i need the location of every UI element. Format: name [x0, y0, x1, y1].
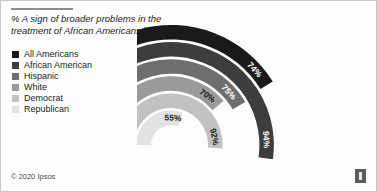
radial-arc-chart: 74%94%75%70%92%55%: [137, 13, 369, 159]
legend-item-republican[interactable]: Republican: [12, 104, 92, 115]
chart-legend: All Americans African American Hispanic …: [12, 49, 92, 115]
legend-item-african-american[interactable]: African American: [12, 60, 92, 71]
ipsos-logo-icon: [355, 169, 366, 183]
legend-swatch-icon: [12, 51, 19, 58]
legend-swatch-icon: [12, 106, 19, 113]
legend-swatch-icon: [12, 84, 19, 91]
legend-item-white[interactable]: White: [12, 82, 92, 93]
arc-plot-area: 74%94%75%70%92%55%: [137, 13, 369, 159]
legend-item-hispanic[interactable]: Hispanic: [12, 71, 92, 82]
legend-item-label: White: [24, 82, 47, 92]
chart-card: % A sign of broader problems in the trea…: [0, 0, 377, 192]
copyright-text: © 2020 Ipsos: [11, 172, 55, 181]
legend-item-label: African American: [24, 60, 92, 70]
legend-swatch-icon: [12, 62, 19, 69]
legend-item-label: Democrat: [24, 93, 63, 103]
legend-item-label: Republican: [24, 104, 69, 114]
logo-bar: [359, 172, 362, 180]
legend-swatch-icon: [12, 73, 19, 80]
arc-value-label: 94%: [261, 131, 272, 149]
legend-item-all-americans[interactable]: All Americans: [12, 49, 92, 60]
arc-value-label: 55%: [164, 112, 182, 123]
legend-item-label: Hispanic: [24, 71, 59, 81]
legend-item-democrat[interactable]: Democrat: [12, 93, 92, 104]
horizontal-rule-icon: [11, 8, 73, 10]
legend-swatch-icon: [12, 95, 19, 102]
legend-item-label: All Americans: [24, 49, 79, 59]
